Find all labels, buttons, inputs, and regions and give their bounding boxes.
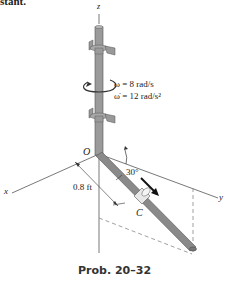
angle-label: 30° <box>126 167 139 177</box>
z-axis-label: z <box>97 2 100 11</box>
origin-label: O <box>83 146 90 157</box>
distance-label: 0.8 ft <box>73 182 92 192</box>
angle-arc <box>125 150 127 164</box>
point-c-label: C <box>136 207 143 218</box>
x-axis-label: x <box>4 186 8 196</box>
y-axis-label: y <box>219 192 223 202</box>
mechanism-diagram <box>0 0 229 283</box>
problem-caption: Prob. 20–32 <box>78 264 151 277</box>
omega-dot-label: ω̇ = 12 rad/s² <box>114 91 161 101</box>
omega-label: ω = 8 rad/s <box>114 79 154 89</box>
